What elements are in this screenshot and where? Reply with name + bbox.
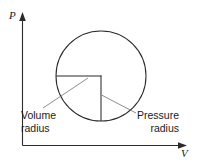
pressure-radius-callout-line-1: Pressure xyxy=(137,109,179,121)
y-axis-label: P xyxy=(9,10,16,21)
pressure-radius-callout: Pressure radius xyxy=(137,109,179,134)
x-axis-label: V xyxy=(181,148,188,159)
diagram-canvas xyxy=(0,0,201,167)
pressure-radius-callout-line-2: radius xyxy=(137,122,179,135)
pressure-radius-leader-line xyxy=(102,95,137,113)
volume-radius-callout-line-2: radius xyxy=(21,122,56,135)
volume-radius-callout-line-1: Volume xyxy=(21,109,56,121)
p-axis-arrowhead-icon xyxy=(19,12,26,21)
volume-radius-callout: Volume radius xyxy=(21,109,56,134)
pv-diagram-figure: P V Volume radius Pressure radius xyxy=(0,0,201,167)
